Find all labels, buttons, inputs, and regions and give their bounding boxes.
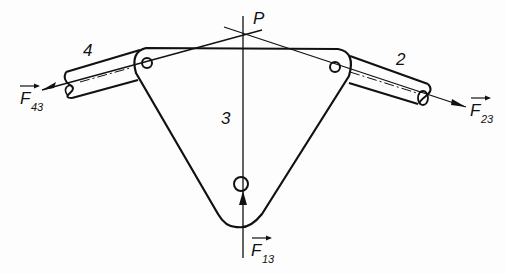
- line-of-action-f23: [224, 27, 466, 107]
- pin-bottom: [234, 177, 248, 191]
- arrowhead-f23: [451, 99, 466, 107]
- diagram-canvas: P 4 2 3 F 43 F 23 F 13: [0, 0, 506, 274]
- pin-left: [142, 58, 152, 68]
- svg-text:23: 23: [480, 113, 494, 125]
- force-label-f13: F 13: [251, 236, 275, 266]
- line-of-action-f43: [42, 30, 262, 90]
- force-label-f43: F 43: [20, 84, 44, 114]
- label-point-p: P: [253, 9, 265, 28]
- svg-text:13: 13: [262, 253, 275, 265]
- link-2: [349, 56, 431, 105]
- label-link-2: 2: [395, 50, 406, 69]
- arrowhead-f43: [42, 82, 56, 90]
- label-plate-3: 3: [221, 109, 231, 128]
- label-link-4: 4: [83, 41, 92, 60]
- arrowhead-f13: [239, 191, 247, 205]
- svg-text:43: 43: [31, 101, 44, 113]
- force-label-f23: F 23: [470, 96, 494, 126]
